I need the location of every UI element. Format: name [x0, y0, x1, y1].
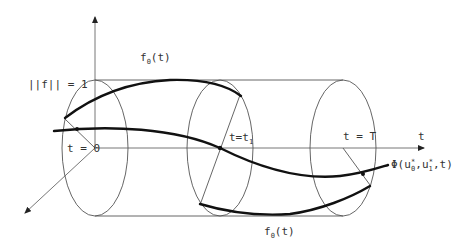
t-one-label: t=t1 — [229, 131, 253, 146]
t-axis-label: t — [418, 130, 425, 143]
lower-trajectory-curve — [200, 186, 370, 215]
cylinder-diagram: ||f|| = 1 f0(t) f0(t) t = 0 t=t1 t = T t… — [0, 0, 464, 250]
norm-label: ||f|| = 1 — [28, 78, 88, 91]
point-t1 — [218, 146, 222, 150]
radius-T — [343, 148, 370, 185]
point-t0 — [75, 127, 79, 131]
point-T — [361, 172, 365, 176]
f0-top-label: f0(t) — [140, 51, 171, 66]
phi-label: Φ(u0*,u1*,t) — [391, 158, 453, 173]
t-final-label: t = T — [343, 130, 376, 143]
phi-trajectory-curve — [54, 128, 388, 177]
f0-bottom-label: f0(t) — [264, 225, 295, 240]
t-zero-label: t = 0 — [67, 142, 100, 155]
depth-axis — [25, 148, 95, 213]
upper-trajectory-curve — [65, 80, 241, 118]
